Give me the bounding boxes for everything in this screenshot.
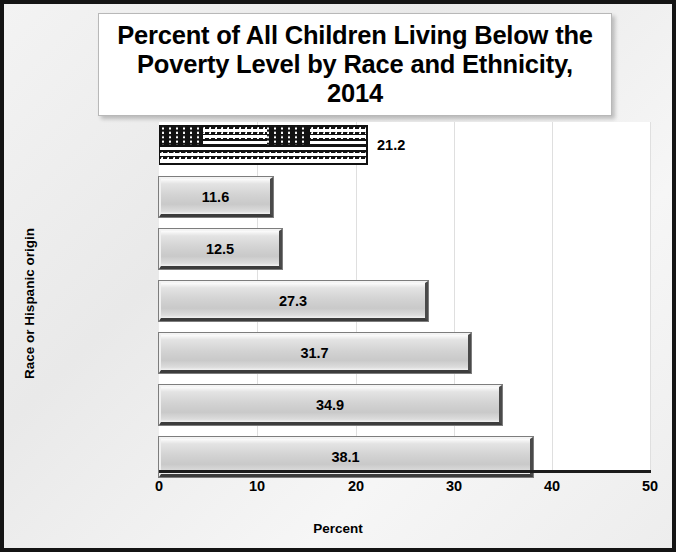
x-tick-0: 0 xyxy=(155,478,163,494)
bar-value-asian: 11.6 xyxy=(202,189,229,205)
bar-pacific-islander[interactable]: 27.3 xyxy=(159,281,428,321)
x-tick-20: 20 xyxy=(348,478,364,494)
bar-hispanic[interactable]: 31.7 xyxy=(159,333,471,373)
chart-title-box: Percent of All Children Living Below the… xyxy=(98,13,612,116)
bar-value-black: 38.1 xyxy=(331,449,359,465)
bar-american-indian-alaska-native[interactable]: 34.9 xyxy=(159,385,502,425)
page-title: Percent of All Children Living Below the… xyxy=(111,21,599,108)
x-tick-50: 50 xyxy=(642,478,658,494)
x-tick-40: 40 xyxy=(544,478,560,494)
bar-value-all-children: 21.2 xyxy=(377,125,405,165)
x-tick-30: 30 xyxy=(446,478,462,494)
bar-white[interactable]: 12.5 xyxy=(159,229,282,269)
bar-value-american-indian-alaska-native: 34.9 xyxy=(316,397,344,413)
bar-all-children[interactable] xyxy=(159,125,368,165)
flag-stars-pattern xyxy=(160,126,366,145)
chart-figure: Percent of All Children Living Below the… xyxy=(0,0,676,552)
bar-value-pacific-islander: 27.3 xyxy=(279,293,307,309)
plot-area: 21.2 All children 11.6 Asian 12.5 White … xyxy=(159,122,651,471)
bar-asian[interactable]: 11.6 xyxy=(159,177,273,217)
x-axis-title: Percent xyxy=(4,521,672,536)
x-axis-line xyxy=(159,470,651,473)
x-tick-10: 10 xyxy=(249,478,265,494)
bar-value-hispanic: 31.7 xyxy=(300,345,328,361)
y-axis-title: Race or Hispanic origin xyxy=(22,204,37,404)
gridline-50 xyxy=(650,122,651,471)
gridline-40 xyxy=(552,122,553,471)
bar-value-white: 12.5 xyxy=(206,241,234,257)
